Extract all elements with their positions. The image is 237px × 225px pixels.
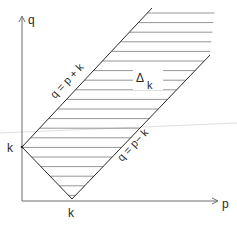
vertex-dot-q-axis bbox=[21, 146, 24, 149]
p-intercept-label: k bbox=[68, 206, 75, 220]
line-q-equals-p-minus-k-left bbox=[22, 147, 72, 199]
diagram-canvas: q p k k q = p + k q = p− k Δ k bbox=[0, 0, 237, 225]
q-axis bbox=[19, 16, 25, 201]
hatch-lines bbox=[0, 13, 237, 195]
p-axis bbox=[22, 198, 218, 204]
upper-line-label: q = p + k bbox=[48, 61, 86, 101]
lower-line-label: q = p− k bbox=[115, 126, 151, 164]
region-label-delta: Δ bbox=[136, 71, 144, 85]
line-q-equals-p-plus-k bbox=[22, 8, 152, 147]
p-axis-label: p bbox=[222, 197, 229, 211]
region-label-subscript: k bbox=[147, 79, 153, 91]
q-axis-label: q bbox=[28, 13, 35, 27]
q-intercept-label: k bbox=[7, 141, 14, 155]
